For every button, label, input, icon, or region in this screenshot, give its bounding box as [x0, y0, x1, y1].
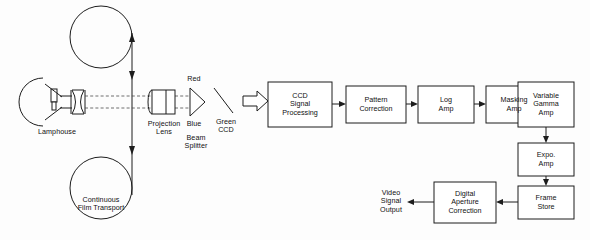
- block-arrow-icon: [243, 91, 268, 111]
- signal-transition-arrow-group: [243, 91, 268, 111]
- box-expo-amp[interactable]: [518, 143, 574, 176]
- film-spool-tangent-marker: [129, 33, 135, 42]
- label-video-signal-output: Video Signal Output: [370, 189, 412, 214]
- reflector-icon: [19, 78, 43, 126]
- beam-splitter-group: [190, 88, 205, 116]
- connector-arrowhead: [479, 101, 486, 107]
- green-ccd-sensor-icon: [214, 88, 233, 113]
- label-green-ccd: Green CCD: [209, 118, 243, 135]
- label-beam-splitter: Beam Splitter: [178, 134, 214, 151]
- label-lamphouse: Lamphouse: [22, 128, 92, 136]
- box-ccd-signal-processing[interactable]: [268, 82, 332, 127]
- green-ccd-group: [214, 88, 233, 113]
- connector-arrowhead: [496, 199, 503, 205]
- box-pattern-correction[interactable]: [346, 86, 406, 123]
- box-digital-aperture-correction[interactable]: [434, 182, 496, 223]
- top-film-spool-icon: [70, 6, 132, 68]
- lamphouse-group: [19, 78, 85, 126]
- beam-splitter-prism-icon: [190, 88, 205, 116]
- connector-arrowhead: [543, 136, 549, 143]
- film-direction-arrow-upper: [129, 71, 135, 80]
- box-log-amp[interactable]: [418, 86, 474, 123]
- lamp-base-icon: [52, 102, 56, 110]
- diagram-canvas: CCD Signal Processing Pattern Correction…: [0, 0, 590, 240]
- box-variable-gamma-amp[interactable]: [518, 82, 574, 127]
- film-direction-arrow-lower: [129, 146, 135, 155]
- connector-arrowhead: [339, 101, 346, 107]
- connector-arrowhead: [411, 101, 418, 107]
- projection-lens-front-curve: [148, 90, 152, 114]
- label-red-output: Red: [180, 75, 208, 83]
- connector-arrowhead: [543, 179, 549, 186]
- label-blue-output: Blue: [180, 120, 208, 128]
- condenser-lens-icon: [72, 90, 84, 114]
- projection-lens-icon: [152, 90, 175, 114]
- label-continuous-film-transport: Continuous Film Transport: [61, 196, 141, 213]
- box-frame-store[interactable]: [518, 186, 574, 219]
- projection-lens-group: [148, 90, 175, 114]
